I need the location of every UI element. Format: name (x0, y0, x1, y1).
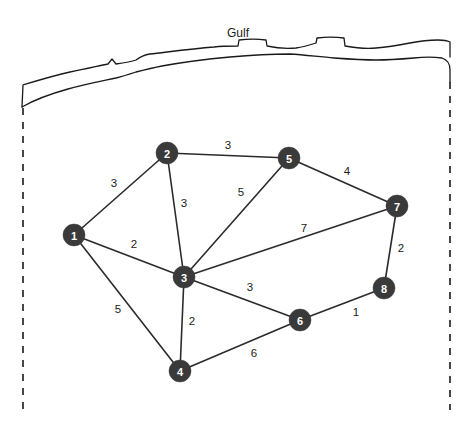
graph-node-8[interactable]: 8 (373, 277, 395, 299)
graph-map-figure: Gulf 3334527253216 12345678 (0, 0, 472, 432)
graph-edge-2-3 (167, 153, 184, 277)
figure-canvas: Gulf 3334527253216 12345678 (0, 0, 472, 432)
node-label-5: 5 (286, 153, 292, 165)
graph-node-4[interactable]: 4 (169, 360, 191, 382)
coastline-lower-path (22, 54, 450, 107)
edge-weight-4-6: 6 (251, 347, 257, 359)
graph-edge-7-8 (384, 206, 397, 288)
edge-weight-3-4: 2 (189, 315, 195, 327)
edge-weight-6-8: 1 (353, 306, 359, 318)
edge-weight-3-6: 3 (247, 281, 253, 293)
graph-node-6[interactable]: 6 (289, 309, 311, 331)
edge-weight-5-7: 4 (344, 165, 351, 177)
edge-weight-1-2: 3 (111, 177, 117, 189)
node-label-7: 7 (394, 201, 400, 213)
graph-node-7[interactable]: 7 (386, 195, 408, 217)
graph-node-5[interactable]: 5 (278, 147, 300, 169)
edge-weight-2-5: 3 (225, 139, 231, 151)
node-label-8: 8 (381, 283, 387, 295)
edge-weight-labels-layer: 3334527253216 (111, 139, 404, 359)
coastline-group (22, 37, 450, 107)
graph-edge-3-4 (180, 277, 184, 371)
graph-edge-3-6 (184, 277, 300, 320)
node-label-2: 2 (164, 148, 170, 160)
edge-weight-7-8: 2 (398, 242, 404, 254)
graph-node-2[interactable]: 2 (156, 142, 178, 164)
graph-edge-6-8 (300, 288, 384, 320)
gulf-label: Gulf (227, 26, 250, 40)
node-label-3: 3 (181, 272, 187, 284)
edge-weight-3-7: 7 (301, 222, 307, 234)
edge-weight-1-4: 5 (115, 303, 121, 315)
graph-edge-2-5 (167, 153, 289, 158)
edge-weight-1-3: 2 (131, 238, 137, 250)
node-label-4: 4 (177, 366, 184, 378)
graph-edge-1-2 (74, 153, 167, 235)
graph-node-1[interactable]: 1 (63, 224, 85, 246)
coastline-upper-path (22, 37, 450, 107)
edges-layer (74, 153, 397, 371)
graph-edge-4-6 (180, 320, 300, 371)
node-label-6: 6 (297, 315, 303, 327)
edge-weight-3-5: 5 (238, 186, 244, 198)
graph-node-3[interactable]: 3 (173, 266, 195, 288)
edge-weight-2-3: 3 (181, 197, 187, 209)
node-label-1: 1 (71, 230, 77, 242)
